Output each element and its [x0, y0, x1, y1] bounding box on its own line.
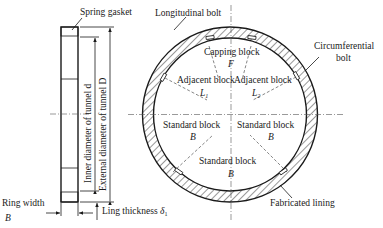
standard-block-right-label: Standard block: [237, 120, 295, 130]
circumferential-bolt-label-line2: bolt: [336, 53, 351, 63]
tunnel-lining-diagram: Spring gasket Inner diameter of tunnel d…: [0, 0, 383, 228]
standard-block-bottom-symbol: B: [228, 169, 234, 179]
longitudinal-bolt-label: Longitudinal bolt: [155, 8, 222, 18]
longitudinal-bolt: [206, 35, 214, 39]
adjacent-block-left-label: Adjacent block: [177, 75, 235, 85]
circumferential-bolt-label-line1: Circumferential: [314, 41, 375, 51]
capping-block-symbol: F: [227, 59, 234, 69]
standard-block-left-label: Standard block: [163, 120, 221, 130]
standard-block-bottom-label: Standard block: [199, 156, 257, 166]
diagram-canvas: Spring gasket Inner diameter of tunnel d…: [0, 0, 383, 228]
standard-block-left-symbol: B: [190, 132, 196, 142]
fabricated-lining-label: Fabricated lining: [270, 198, 335, 208]
capping-block-label: Capping block: [204, 47, 260, 57]
standard-block-right-symbol: B: [268, 132, 274, 142]
longitudinal-bolt: [248, 35, 256, 39]
adjacent-block-right-label: Adjacent block: [234, 75, 292, 85]
ring-view: Longitudinal bolt Circumferential bolt F…: [0, 0, 383, 228]
